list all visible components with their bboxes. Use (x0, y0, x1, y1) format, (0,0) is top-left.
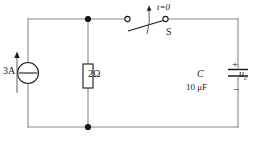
capacitor-label: C (197, 69, 204, 79)
polarity-plus-label: + (232, 59, 238, 70)
capacitor-voltage-label: uc (239, 69, 247, 82)
current-source-symbol (14, 52, 38, 94)
circuit-schematic-svg (0, 0, 255, 141)
junction-dot-top (85, 16, 91, 22)
current-source-arrow-head (14, 52, 19, 59)
capacitor-voltage-subscript: c (244, 74, 247, 82)
current-source-label: 3A (3, 66, 15, 76)
resistor-label: 2Ω (88, 69, 100, 79)
junction-dot-bottom (85, 124, 91, 130)
circuit-diagram: 3A 2Ω t=0 S C 10 μF + uc − (0, 0, 255, 141)
switch-terminal-right (163, 16, 168, 21)
circuit-wires (28, 19, 238, 127)
switch-name-label: S (166, 27, 172, 37)
switch-motion-arc (147, 8, 149, 34)
switch-time-label: t=0 (157, 3, 170, 12)
capacitor-value-label: 10 μF (186, 83, 207, 92)
polarity-minus-label: − (233, 84, 239, 95)
switch-terminal-left (125, 16, 130, 21)
switch-motion-arrowhead (147, 5, 151, 11)
switch-lever (128, 21, 163, 32)
